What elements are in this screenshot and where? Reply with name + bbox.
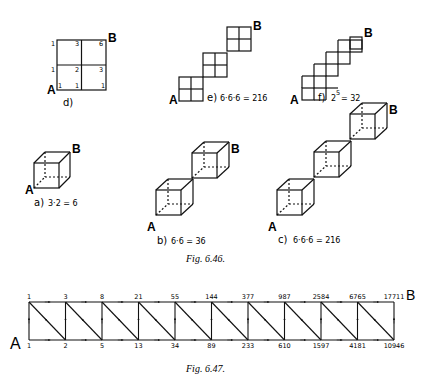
svg-text:3: 3: [63, 293, 67, 301]
label-a-f: A: [290, 93, 299, 107]
svg-text:2: 2: [63, 342, 67, 350]
svg-text:2584: 2584: [313, 293, 330, 301]
label-a-lattice: A: [10, 335, 21, 352]
svg-text:34: 34: [171, 342, 179, 350]
diagram-a-cube: [34, 152, 70, 188]
svg-text:2: 2: [75, 66, 79, 74]
lattice-bottom-values: 1251334892336101597418110946: [27, 342, 404, 350]
label-a-a: A: [25, 183, 34, 197]
svg-text:5: 5: [336, 89, 340, 97]
label-b-b: B: [231, 142, 240, 156]
svg-text:5: 5: [100, 342, 104, 350]
svg-text:144: 144: [205, 293, 217, 301]
svg-text:17711: 17711: [384, 293, 405, 301]
diagram-b-cubes: [156, 142, 229, 215]
figure-canvas: 1 3 6 1 2 3 1 1 1 A B d) A B e) 6·6·6 = …: [0, 0, 430, 380]
svg-text:1: 1: [101, 82, 105, 90]
svg-text:1: 1: [27, 293, 31, 301]
diagram-c-cubes: [277, 103, 387, 215]
caption-d: d): [63, 97, 73, 108]
caption-b-letter: b): [157, 235, 167, 246]
svg-text:1: 1: [51, 66, 55, 74]
label-b-e: B: [253, 19, 262, 33]
diagram-f-staircase: [302, 37, 362, 100]
caption-f: f) 2 5 = 32: [318, 89, 360, 103]
label-b-f: B: [364, 26, 373, 40]
label-a-e: A: [169, 93, 178, 107]
svg-text:610: 610: [278, 342, 290, 350]
label-b-d: B: [108, 31, 117, 45]
caption-c-letter: c): [278, 234, 287, 245]
caption-e-formula: 6·6·6 = 216: [220, 94, 267, 103]
label-a-c: A: [268, 220, 277, 234]
label-b-c: B: [389, 103, 398, 117]
svg-text:1: 1: [51, 40, 55, 48]
svg-text:13: 13: [134, 342, 142, 350]
caption-a-formula: 3·2 = 6: [48, 199, 78, 208]
label-a-d: A: [47, 83, 56, 97]
figure-caption-6-46: Fig. 6.46.: [185, 253, 225, 264]
lattice-top-values: 13821551443779872584676517711: [27, 293, 404, 301]
label-a-b: A: [147, 220, 156, 234]
svg-text:55: 55: [171, 293, 179, 301]
svg-text:f): f): [318, 92, 326, 103]
svg-text:= 32: = 32: [341, 94, 360, 103]
diagram-e-grids: [179, 27, 251, 101]
fibonacci-lattice: [29, 302, 394, 340]
svg-text:6: 6: [99, 40, 103, 48]
svg-text:21: 21: [134, 293, 142, 301]
svg-text:1: 1: [27, 342, 31, 350]
label-b-a: B: [72, 142, 81, 156]
svg-text:377: 377: [242, 293, 254, 301]
svg-text:1: 1: [58, 82, 62, 90]
svg-text:89: 89: [207, 342, 215, 350]
svg-text:6765: 6765: [349, 293, 366, 301]
svg-text:10946: 10946: [384, 342, 405, 350]
label-b-lattice: B: [406, 287, 415, 303]
figure-caption-6-47: Fig. 6.47.: [185, 363, 225, 374]
svg-text:987: 987: [278, 293, 290, 301]
svg-text:233: 233: [242, 342, 254, 350]
caption-e-letter: e): [207, 92, 217, 103]
svg-text:1597: 1597: [313, 342, 330, 350]
svg-text:1: 1: [75, 82, 79, 90]
svg-text:3: 3: [75, 40, 79, 48]
caption-b-formula: 6·6 = 36: [171, 237, 206, 246]
svg-text:4181: 4181: [349, 342, 366, 350]
svg-text:8: 8: [100, 293, 104, 301]
caption-c-formula: 6·6·6 = 216: [293, 236, 340, 245]
caption-a-letter: a): [34, 197, 44, 208]
svg-text:3: 3: [99, 66, 103, 74]
